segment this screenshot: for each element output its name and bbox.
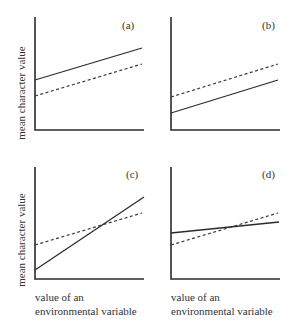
x-axis-label-right: value of an environmental variable	[171, 290, 273, 318]
panel-d-label: (d)	[262, 168, 275, 181]
panel-d-solid-line	[171, 222, 279, 233]
x-axis-label-left-line2: environmental variable	[35, 304, 137, 318]
panel-a-axes	[35, 17, 144, 130]
panel-c: (c)	[35, 167, 144, 279]
panel-c-solid-line	[35, 197, 144, 270]
panel-c-label: (c)	[126, 168, 139, 181]
panel-b-axes	[171, 17, 280, 130]
panel-c-axes	[35, 167, 144, 279]
panel-d: (d)	[171, 167, 280, 279]
panel-b-solid-line	[171, 80, 278, 113]
panel-b: (b)	[171, 17, 280, 130]
panel-a-label: (a)	[122, 19, 135, 32]
panel-b-dashed-line	[171, 64, 278, 97]
y-axis-label-bottom: mean character value	[15, 193, 27, 287]
x-axis-label-left-line1: value of an	[35, 290, 137, 304]
x-axis-label-right-line2: environmental variable	[171, 304, 273, 318]
panel-d-dashed-line	[171, 213, 278, 245]
panel-a: (a)	[35, 17, 144, 130]
panel-a-dashed-line	[35, 64, 142, 96]
panel-a-solid-line	[35, 48, 142, 80]
y-axis-label-top: mean character value	[15, 46, 27, 140]
reaction-norm-figure: (a) (b) (c) (d) mean character value mea…	[0, 0, 291, 331]
x-axis-label-left: value of an environmental variable	[35, 290, 137, 318]
panel-c-dashed-line	[35, 213, 142, 245]
x-axis-label-right-line1: value of an	[171, 290, 273, 304]
panel-b-label: (b)	[262, 19, 275, 32]
